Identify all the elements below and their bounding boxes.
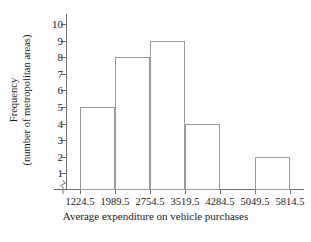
x-axis-tick-label: 5049.5 xyxy=(241,196,270,207)
histogram-figure: Frequency (number of metropolitan areas)… xyxy=(0,0,311,242)
y-axis-tick-label: 2 xyxy=(58,151,64,162)
y-axis-tick-label: 9 xyxy=(58,35,64,46)
histogram-bar xyxy=(115,57,150,190)
y-axis-title-line2: (number of metropolitan areas) xyxy=(20,35,33,166)
y-axis-tick-label: 3 xyxy=(58,135,64,146)
x-axis-tick-label: 2754.5 xyxy=(136,196,165,207)
y-axis-tick-label: 8 xyxy=(58,52,64,63)
x-axis-tick-label: 4284.5 xyxy=(206,196,235,207)
x-axis-tick xyxy=(290,189,291,194)
histogram-bar xyxy=(255,157,290,190)
y-axis-tick-label: 7 xyxy=(58,68,64,79)
y-axis-tick-label: 4 xyxy=(58,118,64,129)
x-axis-tick-label: 5814.5 xyxy=(276,196,305,207)
plot-area: 12345678910 1224.51989.52754.53519.54284… xyxy=(66,14,304,190)
x-axis-tick-label: 1224.5 xyxy=(66,196,95,207)
y-axis-title-line1: Frequency xyxy=(8,35,21,166)
y-axis-tick-label: 6 xyxy=(58,85,64,96)
histogram-bar xyxy=(185,124,220,190)
y-axis-tick-label: 5 xyxy=(58,101,64,112)
histogram-bar xyxy=(150,41,185,190)
x-axis-tick-label: 3519.5 xyxy=(171,196,200,207)
x-axis-title: Average expenditure on vehicle purchases xyxy=(0,210,311,223)
y-axis-tick-label: 10 xyxy=(52,18,63,29)
y-axis-tick-label: 1 xyxy=(58,168,64,179)
axis-break-icon xyxy=(58,180,70,194)
x-axis-tick xyxy=(220,189,221,194)
histogram-bar xyxy=(80,107,115,190)
y-axis-title: Frequency (number of metropolitan areas) xyxy=(0,0,40,200)
x-axis-tick-label: 1989.5 xyxy=(101,196,130,207)
